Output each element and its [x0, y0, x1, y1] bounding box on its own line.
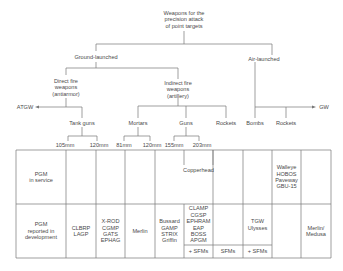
node-indirect-fire: Indirect fire weapons (artillery): [164, 80, 192, 99]
caliber-155: 155mm: [165, 142, 184, 148]
node-atgw: ATGW: [17, 104, 33, 110]
cell-tank120-dev: X-ROD CGMP GATS EPHAG: [96, 204, 125, 258]
node-direct-fire: Direct fire weapons (antiarmor): [52, 78, 79, 97]
cell-sfm-155: + SFMs: [184, 245, 213, 258]
root-line-2: precision attack: [164, 16, 205, 22]
node-bombs: Bombs: [246, 120, 263, 126]
cell-sfm-rockets: + SFMs: [243, 245, 272, 258]
item: APGM: [190, 237, 206, 243]
indirect-line-2: weapons: [164, 86, 192, 92]
cell-rockets-dev: TGW Ulysses: [243, 204, 272, 245]
cell-mortar120-dev: Bussard GAMP STRIX Griffin: [155, 204, 184, 258]
root-node: Weapons for the precision attack of poin…: [164, 10, 205, 29]
item: Ulysses: [248, 225, 268, 231]
item: EPHAG: [101, 237, 121, 243]
root-line-3: of point targets: [164, 23, 205, 29]
direct-line-2: weapons: [52, 84, 79, 90]
caliber-120-tank: 120mm: [90, 142, 109, 148]
cell-sfm-203: SFMs: [213, 245, 243, 258]
cell-copperhead: Copperhead: [184, 165, 213, 175]
label-line: development: [25, 234, 57, 240]
indirect-line-3: (artillery): [164, 93, 192, 99]
direct-line-3: (antiarmor): [52, 91, 79, 97]
cell-mortar81-dev: Merlin: [125, 204, 155, 258]
row-label-development: PGM reported in development: [16, 204, 66, 258]
node-guns: Guns: [179, 120, 192, 126]
cell-air-bombs-service: Walleye HOBOS Paveway GBU-15: [272, 152, 301, 202]
node-gw: GW: [319, 104, 329, 110]
label-line: in service: [29, 177, 53, 183]
item: Medusa: [306, 231, 326, 237]
caliber-81: 81mm: [116, 142, 132, 148]
caliber-120-mortar: 120mm: [143, 142, 162, 148]
item: Griffin: [162, 237, 177, 243]
caliber-203: 203mm: [193, 142, 212, 148]
node-mortars: Mortars: [129, 120, 148, 126]
cell-tank105-dev: CLBRP LAGP: [66, 204, 96, 258]
item: GBU-15: [276, 183, 296, 189]
cell-gun155-dev: CLAMP CGSP EPHRAM EAP BOSS APGM: [184, 204, 213, 245]
item: LAGP: [74, 231, 89, 237]
node-rockets-air: Rockets: [276, 120, 296, 126]
cell-air-rockets-dev: Merlin/ Medusa: [301, 204, 331, 258]
caliber-105: 105mm: [56, 142, 75, 148]
row-label-in-service: PGM in service: [16, 150, 66, 204]
node-air-launched: Air-launched: [248, 56, 279, 62]
node-ground-launched: Ground-launched: [74, 54, 117, 60]
node-tank-guns: Tank guns: [69, 120, 95, 126]
node-rockets-ground: Rockets: [216, 120, 236, 126]
